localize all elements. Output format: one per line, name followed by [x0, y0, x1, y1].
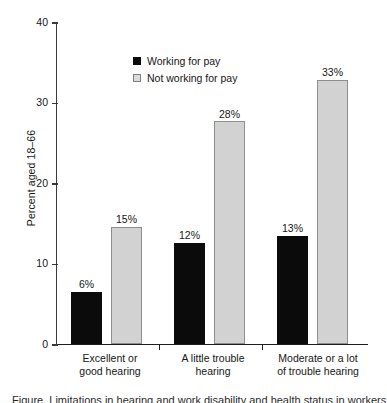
- bar-label-notworking-excellent: 15%: [106, 213, 147, 225]
- legend: Working for pay Not working for pay: [133, 53, 237, 87]
- x-category-label-little: A little trouble hearing: [163, 352, 263, 377]
- bar-label-notworking-little: 28%: [209, 108, 250, 120]
- bar-label-notworking-moderate: 33%: [312, 66, 353, 78]
- y-tick-label: 0: [8, 338, 48, 350]
- x-category-line: Moderate or a lot: [262, 352, 374, 365]
- bar-label-working-excellent: 6%: [66, 278, 107, 290]
- y-tick-label: 40: [8, 16, 48, 28]
- x-category-line: of trouble hearing: [262, 365, 374, 378]
- x-category-label-moderate: Moderate or a lot of trouble hearing: [262, 352, 374, 377]
- bar-label-working-moderate: 13%: [272, 222, 313, 234]
- x-category-line: hearing: [163, 365, 263, 378]
- bar-notworking-excellent: [111, 227, 142, 345]
- y-tick-mark: [52, 103, 58, 104]
- y-tick-mark: [52, 264, 58, 265]
- x-group-separator-2: [262, 344, 263, 350]
- bar-working-moderate: [277, 236, 308, 344]
- y-tick-label: 30: [8, 96, 48, 108]
- y-tick-label: 20: [8, 177, 48, 189]
- plot-area: 0 10 20 30 40 Working for pay: [56, 23, 368, 345]
- legend-item-working-for-pay: Working for pay: [133, 53, 237, 68]
- bar-notworking-moderate: [317, 80, 348, 344]
- y-tick-mark: [52, 344, 58, 345]
- legend-item-not-working-for-pay: Not working for pay: [133, 70, 237, 85]
- bar-label-working-little: 12%: [169, 229, 210, 241]
- y-tick-mark: [52, 22, 58, 23]
- bar-notworking-little: [214, 121, 245, 344]
- figure-caption: Figure. Limitations in hearing and work …: [12, 394, 387, 403]
- x-group-separator-1: [159, 344, 160, 350]
- x-category-line: A little trouble: [163, 352, 263, 365]
- legend-swatch-icon: [133, 74, 141, 82]
- x-category-line: good hearing: [60, 365, 160, 378]
- x-category-line: Excellent or: [60, 352, 160, 365]
- legend-swatch-icon: [133, 57, 141, 65]
- legend-item-label: Working for pay: [147, 55, 220, 67]
- legend-item-label: Not working for pay: [147, 72, 237, 84]
- y-tick-label: 10: [8, 257, 48, 269]
- bar-chart-figure: Percent aged 18–66 0 10 20 30 40: [0, 0, 387, 403]
- x-category-label-excellent: Excellent or good hearing: [60, 352, 160, 377]
- bar-working-excellent: [71, 292, 102, 344]
- bar-working-little: [174, 243, 205, 344]
- y-tick-mark: [52, 183, 58, 184]
